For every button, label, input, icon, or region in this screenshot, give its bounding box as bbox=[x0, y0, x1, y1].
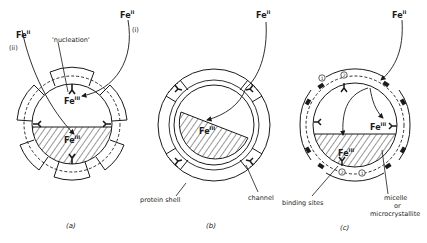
svg-text:1: 1 bbox=[321, 76, 324, 81]
caption-a: (a) bbox=[66, 222, 76, 230]
ferritin-diagram: FeII (i) FeII (ii) 'nucleation' FeIII Fe… bbox=[0, 0, 427, 243]
panel-a: FeII (i) FeII (ii) 'nucleation' FeIII Fe… bbox=[9, 9, 139, 230]
microcrystallite-label: microcrystallite bbox=[370, 210, 420, 218]
binding-sites-label: binding sites bbox=[282, 199, 324, 207]
nucleation-label: 'nucleation' bbox=[52, 36, 90, 44]
binding-sites-pointer bbox=[312, 166, 338, 196]
arrow-fe-entry-c bbox=[381, 20, 402, 80]
protein-shell-pointer bbox=[176, 183, 186, 196]
fe-ii-label-i: FeII bbox=[120, 9, 134, 20]
path-ii-label: (ii) bbox=[9, 44, 18, 52]
arrow-fe-entry-b bbox=[207, 22, 266, 120]
micelle-pointer bbox=[382, 150, 388, 194]
panel-b: FeII FeIII protein shell channel (b) bbox=[140, 9, 274, 230]
svg-text:2: 2 bbox=[341, 170, 344, 175]
channel-label: channel bbox=[248, 194, 274, 202]
caption-b: (b) bbox=[206, 222, 216, 230]
micelle-label: micelle bbox=[384, 194, 407, 202]
fe-ii-label-ii: FeII bbox=[16, 29, 30, 40]
caption-c: (c) bbox=[340, 224, 350, 232]
fe-iii-site-label-c: FeIII bbox=[370, 121, 386, 132]
channel-pointer bbox=[246, 165, 258, 192]
protein-shell-label: protein shell bbox=[140, 196, 180, 204]
svg-text:1: 1 bbox=[361, 171, 364, 176]
svg-text:2: 2 bbox=[343, 73, 346, 78]
or-label: or bbox=[394, 202, 401, 210]
fe-ii-label-c: FeII bbox=[392, 9, 406, 20]
path-i-label: (i) bbox=[132, 26, 139, 34]
arrow-to-core-c bbox=[343, 88, 368, 135]
fe-iii-nucleation-label: FeIII bbox=[64, 95, 80, 106]
fe-ii-label-b: FeII bbox=[256, 9, 270, 20]
iron-core-b bbox=[179, 112, 248, 159]
panel-c: 1 2 2 1 FeII FeIII FeIII binding sites m… bbox=[282, 9, 420, 232]
